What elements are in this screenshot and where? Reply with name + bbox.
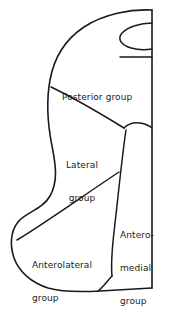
label-lateral-line-2: group [54,193,110,204]
label-anterolateral-group: Anterolateral group [32,238,92,321]
label-lateral-group: Lateral group [54,138,110,226]
anterolateral-bottom-divider-path [98,276,112,291]
label-anteromedial-line-3: group [120,296,154,307]
label-posterior-group: Posterior group [62,70,132,125]
label-lateral-line-1: Lateral [54,160,110,171]
anatomical-diagram: Posterior group Lateral group Anterolate… [0,0,172,321]
label-anterolateral-line-1: Anterolateral [32,260,92,271]
label-anteromedial-group: Antero- medial group [120,208,154,321]
label-anteromedial-line-1: Antero- [120,230,154,241]
label-anterolateral-line-2: group [32,293,92,304]
label-anteromedial-line-2: medial [120,263,154,274]
label-posterior-line-1: Posterior group [62,92,132,103]
oval-structure-path [120,23,152,50]
